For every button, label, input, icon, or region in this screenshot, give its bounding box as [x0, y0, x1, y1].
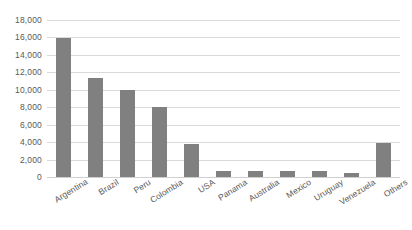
bar: [184, 144, 199, 177]
bar: [120, 90, 135, 177]
bar: [88, 78, 103, 177]
x-axis-tick-label: Others: [382, 177, 409, 199]
y-axis-tick-label: 0: [37, 172, 42, 182]
y-axis-tick-label: 10,000: [15, 85, 42, 95]
bars-layer: [47, 20, 400, 177]
x-axis: ArgentinaBrazilPeruColombiaUSAPanamaAust…: [47, 177, 400, 230]
bar-chart: 02,0004,0006,0008,00010,00012,00014,0001…: [0, 0, 412, 230]
x-axis-tick-label: USA: [196, 177, 216, 195]
y-axis-tick-label: 18,000: [15, 15, 42, 25]
y-axis-tick-label: 16,000: [15, 32, 42, 42]
y-axis-tick-label: 2,000: [20, 155, 42, 165]
bar: [56, 38, 71, 177]
y-axis-tick-label: 12,000: [15, 67, 42, 77]
y-axis-tick-label: 4,000: [20, 137, 42, 147]
y-axis-tick-label: 14,000: [15, 50, 42, 60]
bar: [376, 143, 391, 177]
y-axis: 02,0004,0006,0008,00010,00012,00014,0001…: [0, 20, 42, 177]
x-axis-tick-label: Peru: [132, 177, 153, 195]
y-axis-tick-label: 8,000: [20, 102, 42, 112]
x-axis-tick-label: Brazil: [97, 177, 121, 197]
bar: [152, 107, 167, 177]
y-axis-tick-label: 6,000: [20, 120, 42, 130]
